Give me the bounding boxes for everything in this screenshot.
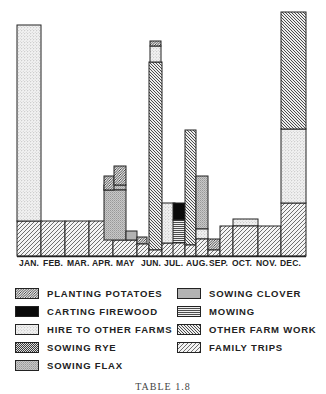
- chart-legend: PLANTING POTATOESCARTING FIREWOODHIRE TO…: [0, 279, 326, 379]
- legend-item: SOWING CLOVER: [177, 286, 301, 300]
- legend-label: CARTING FIREWOOD: [47, 306, 158, 317]
- month-label: MAY: [116, 258, 135, 268]
- month-label: OCT.: [232, 258, 252, 268]
- table-caption: TABLE 1.8: [0, 381, 326, 392]
- legend-item: PLANTING POTATOES: [15, 286, 162, 300]
- legend-swatch-icon: [15, 342, 39, 353]
- month-label: SEP.: [209, 258, 228, 268]
- month-label: MAR.: [67, 258, 90, 268]
- bar-hire-to-other-farms: [17, 25, 41, 221]
- legend-item: SOWING RYE: [15, 340, 116, 354]
- bar-hire-to-other-farms: [233, 219, 258, 226]
- legend-swatch-icon: [177, 306, 201, 317]
- bar-planting-potatoes: [137, 237, 147, 244]
- bar-family-trips: [258, 226, 281, 256]
- bar-hire-to-other-farms: [196, 229, 208, 239]
- bar-hire-to-other-farms: [281, 129, 306, 203]
- bar-planting-potatoes: [104, 176, 114, 190]
- legend-swatch-icon: [177, 288, 201, 299]
- bar-family-trips: [196, 239, 208, 256]
- bar-planting-potatoes: [150, 41, 161, 46]
- legend-swatch-icon: [15, 306, 39, 317]
- bar-family-trips: [149, 250, 162, 256]
- legend-label: OTHER FARM WORK: [209, 324, 317, 335]
- bar-planting-potatoes: [208, 239, 220, 250]
- bar-carting-firewood: [173, 203, 185, 220]
- legend-label: PLANTING POTATOES: [47, 288, 162, 299]
- legend-label: SOWING FLAX: [47, 360, 123, 371]
- bar-family-trips: [137, 244, 149, 256]
- bar-family-trips: [113, 240, 137, 256]
- legend-item: SOWING FLAX: [15, 358, 123, 372]
- bar-family-trips: [281, 203, 306, 256]
- bar-family-trips: [65, 221, 89, 256]
- bar-family-trips: [173, 243, 185, 256]
- legend-item: FAMILY TRIPS: [177, 340, 283, 354]
- bars-group: [17, 12, 306, 256]
- legend-label: MOWING: [209, 306, 255, 317]
- bar-family-trips: [233, 226, 258, 256]
- bar-mowing: [173, 220, 185, 243]
- month-label: NOV.: [256, 258, 277, 268]
- bar-family-trips: [17, 221, 41, 256]
- legend-swatch-icon: [177, 342, 201, 353]
- bar-planting-potatoes: [114, 166, 126, 185]
- legend-label: FAMILY TRIPS: [209, 342, 283, 353]
- legend-swatch-icon: [15, 288, 39, 299]
- bar-family-trips: [220, 226, 233, 256]
- bar-sowing-flax: [104, 190, 126, 240]
- legend-swatch-icon: [15, 324, 39, 335]
- legend-label: SOWING RYE: [47, 342, 116, 353]
- bar-sowing-clover: [126, 231, 137, 240]
- legend-swatch-icon: [15, 360, 39, 371]
- legend-label: HIRE TO OTHER FARMS: [47, 324, 172, 335]
- legend-item: HIRE TO OTHER FARMS: [15, 322, 172, 336]
- month-label: JUL.: [164, 258, 183, 268]
- bar-other-farm-work: [185, 130, 196, 245]
- legend-item: CARTING FIREWOOD: [15, 304, 158, 318]
- month-label: FEB.: [43, 258, 63, 268]
- month-label: APR.: [92, 258, 113, 268]
- month-label: DEC.: [280, 258, 301, 268]
- month-label: JUN.: [141, 258, 161, 268]
- bar-family-trips: [41, 221, 65, 256]
- bar-family-trips: [208, 250, 220, 256]
- legend-swatch-icon: [177, 324, 201, 335]
- month-label: JAN.: [19, 258, 39, 268]
- legend-item: MOWING: [177, 304, 255, 318]
- bar-other-farm-work: [149, 62, 162, 250]
- month-label: AUG.: [186, 258, 208, 268]
- bar-family-trips: [185, 245, 196, 256]
- bar-sowing-flax: [196, 176, 208, 229]
- legend-label: SOWING CLOVER: [209, 288, 301, 299]
- bar-hire-to-other-farms: [150, 46, 161, 62]
- bar-other-farm-work: [281, 12, 306, 129]
- month-axis-labels: JAN.FEB.MAR.APR.MAYJUN.JUL.AUG.SEP.OCT.N…: [12, 258, 312, 270]
- legend-item: OTHER FARM WORK: [177, 322, 317, 336]
